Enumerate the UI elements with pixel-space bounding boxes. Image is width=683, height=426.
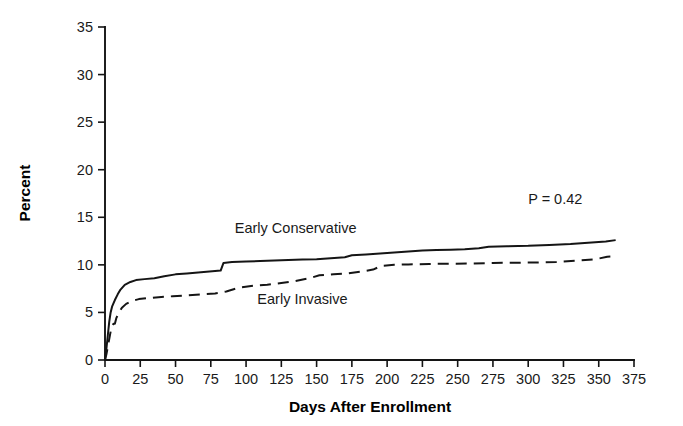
series-line-early-conservative [105,240,616,360]
x-tick-label: 0 [101,371,109,387]
y-tick-label: 15 [77,209,93,225]
x-tick-label: 375 [622,371,646,387]
series-label-invasive: Early Invasive [257,291,347,307]
x-tick-label: 300 [516,371,540,387]
kaplan-meier-chart: 05101520253035 0255075100125150175200225… [0,0,683,426]
y-axis: 05101520253035 [77,19,105,368]
y-tick-label: 30 [77,67,93,83]
x-tick-label: 200 [375,371,399,387]
x-tick-label: 150 [304,371,328,387]
series-lines [105,240,616,360]
chart-annotations: P = 0.42Early ConservativeEarly Invasive [235,191,583,307]
y-tick-label: 5 [85,304,93,320]
x-tick-label: 175 [340,371,364,387]
y-tick-label: 35 [77,19,93,35]
x-tick-label: 25 [132,371,148,387]
y-axis-title: Percent [16,165,33,222]
x-tick-label: 50 [167,371,183,387]
figure-container: 05101520253035 0255075100125150175200225… [0,0,683,426]
x-tick-label: 225 [410,371,434,387]
x-tick-label: 275 [481,371,505,387]
x-tick-label: 350 [587,371,611,387]
x-axis-title: Days After Enrollment [289,398,451,415]
x-tick-label: 250 [446,371,470,387]
y-tick-label: 10 [77,257,93,273]
p-value-annotation: P = 0.42 [528,191,582,207]
y-tick-label: 0 [85,352,93,368]
series-line-early-invasive [105,256,616,360]
y-tick-label: 20 [77,162,93,178]
x-tick-label: 325 [551,371,575,387]
y-tick-label: 25 [77,114,93,130]
x-tick-label: 125 [269,371,293,387]
series-label-conservative: Early Conservative [235,220,357,236]
x-axis: 0255075100125150175200225250275300325350… [101,360,646,387]
x-tick-label: 75 [203,371,219,387]
x-tick-label: 100 [234,371,258,387]
